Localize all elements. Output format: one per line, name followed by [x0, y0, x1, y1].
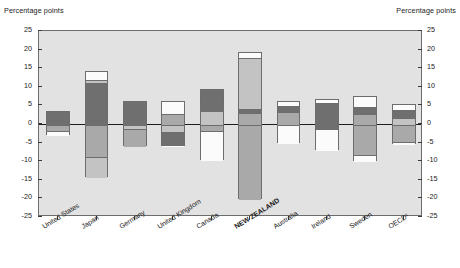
bar-united-states	[46, 111, 70, 135]
bar-segment	[354, 155, 376, 162]
y-axis-tick-label-left: -20	[0, 193, 32, 201]
y-axis-tick-label-left: -25	[0, 212, 32, 220]
bar-segment	[354, 97, 376, 107]
bar-segment	[239, 125, 261, 200]
bar-japan	[85, 71, 109, 177]
bar-segment	[201, 111, 223, 125]
y-axis-tick-left	[38, 123, 42, 124]
bar-sweden	[353, 96, 377, 161]
y-axis-tick-left	[38, 197, 42, 198]
y-axis-tick-label-right: -20	[427, 193, 437, 201]
bar-segment	[162, 132, 184, 145]
y-axis-tick-label-right: 5	[427, 100, 431, 108]
y-axis-tick-label-left: -15	[0, 175, 32, 183]
bar-united-kingdom	[161, 101, 185, 146]
bar-segment	[201, 90, 223, 111]
y-axis-tick-label-left: 10	[0, 82, 32, 90]
bar-segment	[162, 125, 184, 132]
bar-segment	[86, 157, 108, 178]
y-axis-tick-left	[38, 49, 42, 50]
y-axis-tick-label-right: 20	[427, 45, 435, 53]
bar-new-zealand	[238, 52, 262, 199]
chart-container: Percentage points Percentage points 2525…	[0, 0, 460, 268]
bar-segment	[124, 129, 146, 148]
y-axis-tick-left	[38, 160, 42, 161]
y-axis-tick-label-right: 0	[427, 119, 431, 127]
bar-segment	[393, 142, 415, 145]
y-axis-tick-left	[38, 30, 42, 31]
bar-segment	[162, 114, 184, 125]
y-axis-tick-right	[418, 179, 422, 180]
y-axis-title-right: Percentage points	[396, 6, 456, 15]
bar-segment	[393, 118, 415, 125]
bar-segment	[393, 110, 415, 117]
bar-segment	[162, 145, 184, 147]
y-axis-tick-label-left: 15	[0, 63, 32, 71]
y-axis-tick-right	[418, 160, 422, 161]
y-axis-tick-right	[418, 86, 422, 87]
bar-segment	[201, 131, 223, 161]
y-axis-tick-left	[38, 67, 42, 68]
bar-segment	[278, 125, 300, 144]
y-axis-tick-right	[418, 142, 422, 143]
bar-segment	[239, 113, 261, 125]
bar-segment	[47, 112, 69, 125]
y-axis-tick-label-left: -5	[0, 138, 32, 146]
y-axis-tick-label-right: -5	[427, 138, 433, 146]
bar-segment	[239, 58, 261, 109]
bar-germany	[123, 101, 147, 146]
y-axis-tick-right	[418, 104, 422, 105]
bar-segment	[162, 102, 184, 114]
y-axis-tick-label-right: 10	[427, 82, 435, 90]
bar-oecd	[392, 104, 416, 144]
bar-segment	[316, 129, 338, 151]
bar-segment	[86, 83, 108, 125]
bar-segment	[47, 131, 69, 136]
bar-segment	[354, 107, 376, 114]
y-axis-tick-label-left: 5	[0, 100, 32, 108]
y-axis-tick-label-left: -10	[0, 156, 32, 164]
bar-segment	[86, 72, 108, 81]
y-axis-tick-right	[418, 49, 422, 50]
bar-segment	[354, 114, 376, 125]
y-axis-tick-label-left: 20	[0, 45, 32, 53]
y-axis-tick-right	[418, 30, 422, 31]
bar-segment	[124, 102, 146, 125]
y-axis-tick-right	[418, 67, 422, 68]
bar-segment	[354, 125, 376, 155]
y-axis-tick-label-right: -15	[427, 175, 437, 183]
y-axis-tick-right	[418, 123, 422, 124]
y-axis-tick-label-left: 25	[0, 26, 32, 34]
bar-canada	[200, 89, 224, 160]
y-axis-tick-left	[38, 86, 42, 87]
y-axis-tick-right	[418, 197, 422, 198]
y-axis-tick-label-right: -10	[427, 156, 437, 164]
y-axis-tick-label-right: -25	[427, 212, 437, 220]
bar-segment	[316, 103, 338, 125]
y-axis-tick-left	[38, 179, 42, 180]
bar-australia	[277, 101, 301, 143]
y-axis-tick-left	[38, 104, 42, 105]
bar-ireland	[315, 99, 339, 149]
y-axis-tick-left	[38, 216, 42, 217]
y-axis-tick-left	[38, 142, 42, 143]
y-axis-tick-right	[418, 216, 422, 217]
bar-segment	[278, 112, 300, 125]
x-axis-label-japan: Japan	[80, 214, 100, 231]
y-axis-tick-label-left: 0	[0, 119, 32, 127]
y-axis-tick-label-right: 15	[427, 63, 435, 71]
y-axis-title-left: Percentage points	[4, 6, 64, 15]
y-axis-tick-label-right: 25	[427, 26, 435, 34]
plot-area	[38, 30, 422, 216]
bar-segment	[393, 125, 415, 142]
bar-segment	[86, 125, 108, 157]
